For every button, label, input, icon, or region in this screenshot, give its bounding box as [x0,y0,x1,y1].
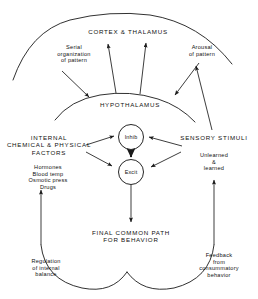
serial-organization-label: Serial organization of pattern [38,44,110,64]
arousal-of-pattern-label: Arousal of pattern [172,44,232,57]
hypothalamus-title: HYPOTHALAMUS [80,101,180,108]
arrow-sensory-to-excit [151,152,181,167]
arrow-serial-to-hypothalamus [62,71,89,97]
figure-canvas: CORTEX & THALAMUS HYPOTHALAMUS Serial or… [0,0,258,299]
final-common-path-label: FINAL COMMON PATH FOR BEHAVIOR [71,229,191,244]
internal-factors-examples: Hormones Blood temp Osmotic press Drugs [12,164,84,190]
inhib-node-label: Inhib [116,134,146,140]
excit-node-label: Excit [116,169,146,175]
feedback-consummatory-label: Feedback from consummatory behavior [186,252,252,278]
arrow-arousal-to-hypothalamus [175,63,199,95]
footer-caption-partial [4,291,254,296]
sensory-stimuli-label: SENSORY STIMULI [172,134,256,141]
internal-factors-label: INTERNAL CHEMICAL & PHYSICAL FACTORS [4,134,94,156]
arrow-sensory-upward [196,66,212,130]
arrow-hypo-to-cortex-right [140,43,146,94]
sensory-stimuli-examples: Unlearned & learned [186,152,242,172]
regulation-internal-balance-label: Regulation of internal balance [18,258,74,278]
cortex-thalamus-title: CORTEX & THALAMUS [68,28,188,35]
